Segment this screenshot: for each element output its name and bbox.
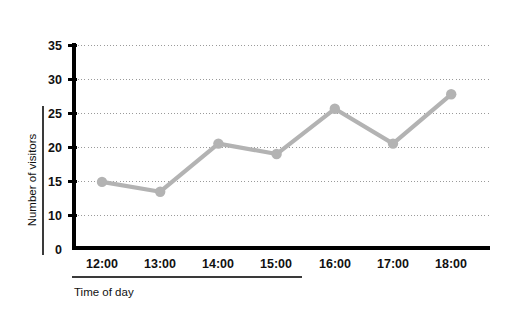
- y-tick-label-20: 20: [48, 141, 62, 155]
- x-tick-label-4: 16:00: [319, 257, 351, 271]
- y-tick-label-25: 25: [48, 107, 62, 121]
- y-tick-label-35: 35: [48, 39, 62, 53]
- y-tick-label-30: 30: [48, 73, 62, 87]
- y-tick-label-0: 0: [55, 243, 62, 257]
- data-point-18:00: [446, 89, 456, 99]
- visitors-line: [102, 94, 451, 191]
- x-tick-label-1: 13:00: [144, 257, 176, 271]
- y-tick-label-10: 10: [48, 209, 62, 223]
- x-tick-label-6: 18:00: [435, 257, 467, 271]
- x-tick-label-3: 15:00: [260, 257, 292, 271]
- line-chart: 35 30 25 20 15 10 0 12:00 13:00 14:00 15…: [0, 0, 517, 313]
- y-axis-tick-labels: 35 30 25 20 15 10 0: [48, 39, 62, 257]
- x-tick-label-2: 14:00: [202, 257, 234, 271]
- chart-container: 35 30 25 20 15 10 0 12:00 13:00 14:00 15…: [0, 0, 517, 313]
- x-axis-tick-labels: 12:00 13:00 14:00 15:00 16:00 17:00 18:0…: [86, 257, 467, 271]
- y-axis-title: Number of visitors: [26, 133, 38, 226]
- data-point-14:00: [213, 138, 223, 148]
- data-point-12:00: [97, 177, 107, 187]
- data-point-13:00: [155, 187, 165, 197]
- x-tick-label-5: 17:00: [377, 257, 409, 271]
- x-tick-label-0: 12:00: [86, 257, 118, 271]
- data-point-16:00: [330, 104, 340, 114]
- data-point-15:00: [271, 149, 281, 159]
- data-point-17:00: [388, 138, 398, 148]
- x-axis-title: Time of day: [74, 286, 134, 298]
- y-tick-label-15: 15: [48, 175, 62, 189]
